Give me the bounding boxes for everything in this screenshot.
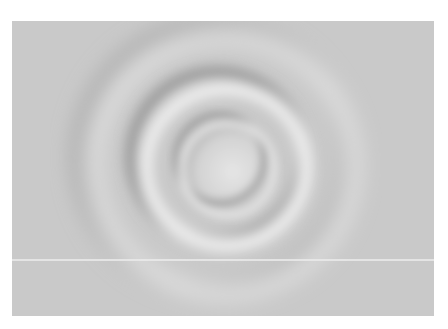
scan-artifact-line [12,259,434,261]
ripple-graphic [12,21,434,316]
ripple-photo [12,21,434,316]
